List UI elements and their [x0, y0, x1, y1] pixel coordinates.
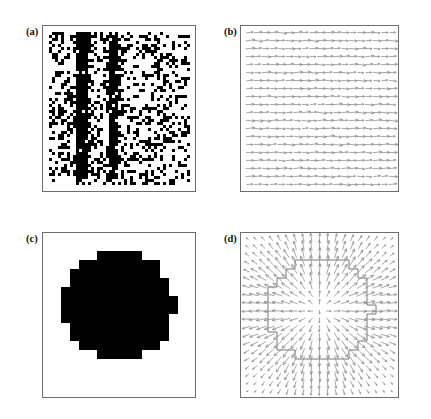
figure-panel-grid: (a) (b) (c) (d): [0, 0, 431, 419]
arrow-shaft: [357, 283, 366, 289]
arrow-shaft: [300, 325, 305, 331]
arrow-shaft: [342, 356, 347, 365]
arrow-shaft: [266, 341, 274, 347]
arrow-shaft: [258, 341, 266, 346]
arrow-shaft: [373, 267, 380, 273]
arrow-shaft: [349, 333, 357, 339]
arrow-shaft: [349, 341, 357, 348]
arrow-shaft: [374, 365, 379, 370]
arrow-shaft: [267, 357, 273, 364]
arrow-shaft: [358, 250, 363, 257]
arrow-shaft: [342, 333, 348, 341]
arrow-shaft: [284, 257, 289, 266]
arrow-shaft: [276, 357, 282, 365]
arrow-shaft: [334, 291, 339, 297]
arrow-shaft: [342, 348, 348, 357]
arrow-shaft: [366, 251, 371, 257]
arrow-shaft: [265, 334, 275, 338]
arrow-shaft: [349, 273, 356, 281]
arrow-shaft: [365, 357, 372, 363]
arrow-shaft: [366, 365, 371, 371]
arrow-shaft: [342, 249, 347, 258]
arrow-shaft: [267, 349, 274, 356]
arrow-shaft: [357, 349, 364, 356]
arrow-shaft: [334, 273, 339, 282]
arrow-shaft: [342, 273, 348, 281]
panel-b-label: (b): [224, 27, 237, 38]
arrow-shaft: [291, 341, 298, 349]
arrow-shaft: [350, 249, 354, 258]
arrow-shaft: [342, 341, 348, 350]
arrow-shaft: [300, 273, 304, 282]
quiver-field: [241, 26, 398, 191]
quiver-field-with-contour: [241, 233, 398, 397]
arrow-shaft: [299, 292, 305, 297]
binary-disk-mask: [43, 233, 195, 397]
arrow-shaft: [281, 326, 290, 331]
arrow-shaft: [334, 325, 339, 331]
arrow-shaft: [358, 258, 364, 266]
arrow-shaft: [283, 357, 289, 365]
arrow-glyph-group: [246, 31, 398, 186]
arrow-shaft: [259, 349, 266, 355]
arrow-shaft: [284, 249, 289, 257]
panel-d-plot-area: [240, 232, 399, 398]
arrow-shaft: [350, 356, 355, 365]
arrow-shaft: [342, 282, 349, 289]
arrow-shaft: [291, 333, 297, 340]
arrow-shaft: [260, 259, 266, 265]
arrow-shaft: [365, 349, 372, 356]
arrow-shaft: [266, 266, 273, 273]
arrow-shaft: [258, 276, 266, 281]
arrow-shaft: [374, 357, 380, 362]
arrow-shaft: [282, 333, 290, 339]
speckle-noise-image: [43, 26, 195, 191]
arrow-shaft: [342, 264, 347, 273]
panel-c-label: (c): [26, 234, 38, 245]
arrow-shaft: [350, 257, 355, 266]
arrow-shaft: [267, 258, 273, 265]
arrow-shaft: [290, 283, 297, 289]
panel-a-label: (a): [26, 27, 38, 38]
arrow-shaft: [260, 252, 265, 257]
arrow-shaft: [282, 341, 290, 348]
arrow-shaft: [365, 341, 374, 347]
arrow-shaft: [268, 365, 274, 371]
arrow-shaft: [282, 283, 290, 289]
arrow-shaft: [276, 250, 282, 257]
arrow-shaft: [275, 266, 282, 274]
arrow-shaft: [266, 275, 274, 281]
arrow-shaft: [365, 259, 372, 265]
panel-d-label: (d): [224, 234, 237, 245]
arrow-shaft: [273, 333, 282, 339]
arrow-shaft: [349, 283, 357, 289]
arrow-shaft: [365, 267, 373, 273]
arrow-shaft: [274, 341, 282, 348]
arrow-shaft: [334, 282, 340, 289]
arrow-shaft: [374, 252, 379, 257]
arrow-shaft: [357, 292, 367, 297]
panel-a-plot-area: [42, 25, 196, 192]
arrow-shaft: [268, 251, 274, 257]
arrow-shaft: [260, 357, 265, 363]
arrow-shaft: [260, 365, 265, 370]
arrow-shaft: [342, 325, 349, 331]
arrow-shaft: [357, 333, 366, 339]
arrow-shaft: [275, 257, 281, 265]
arrow-shaft: [291, 273, 298, 281]
arrow-shaft: [281, 292, 290, 297]
panel-b-plot-area: [240, 25, 399, 192]
arrow-shaft: [357, 357, 364, 364]
arrow-shaft: [291, 325, 298, 331]
panel-c-plot-area: [42, 232, 196, 398]
arrow-shaft: [349, 326, 358, 331]
